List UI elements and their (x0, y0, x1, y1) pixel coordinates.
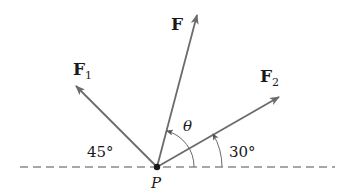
force-diagram: F1 F F2 θ 45° 30° P (0, 0, 353, 191)
point-p-label: P (150, 174, 162, 191)
thirty-degree-angle-arc (213, 134, 222, 167)
point-p-dot (154, 164, 160, 170)
vector-f2-label: F2 (260, 66, 279, 89)
angle-45-label: 45° (87, 143, 114, 161)
vector-f-label: F (171, 14, 183, 34)
vector-f1-label: F1 (73, 59, 92, 82)
theta-label: θ (183, 117, 192, 135)
vector-f-arrow (157, 15, 197, 167)
vector-f2-arrow (157, 97, 279, 167)
angle-30-label: 30° (229, 143, 256, 161)
theta-angle-arc (167, 131, 194, 167)
